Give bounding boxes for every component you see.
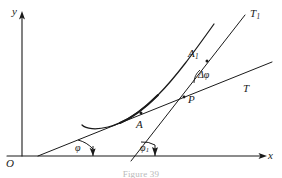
tangent-T1-label: T1 <box>250 8 260 21</box>
tangent-line-T <box>38 62 272 156</box>
figure-caption: Figure 39 <box>0 169 282 178</box>
point-P-label: P <box>188 94 195 105</box>
angle-phi-label: φ <box>75 143 81 153</box>
angle-phi1-label: φ1 <box>140 143 149 154</box>
axes-group <box>7 11 267 159</box>
point-A1-label-text: A <box>188 47 195 59</box>
figure-container: y x O A A1 P T T1 φ φ1 Δφ Figure 39 <box>0 0 282 178</box>
point-P-marker <box>183 96 186 99</box>
angle-phi1-label-subscript: 1 <box>146 146 150 153</box>
point-A1-marker <box>206 60 209 63</box>
point-A1-label: A1 <box>188 48 199 61</box>
tangent-line-T1 <box>131 15 245 161</box>
origin-label: O <box>6 158 14 169</box>
tangent-T1-label-subscript: 1 <box>256 13 260 21</box>
point-A-marker <box>140 112 143 115</box>
angle-phi1-label-text: φ <box>140 142 146 153</box>
curve-path <box>82 24 214 129</box>
tangent-T-label: T <box>243 83 249 94</box>
x-axis-label: x <box>268 150 273 161</box>
point-A1-label-subscript: 1 <box>195 53 199 61</box>
angle-delta-phi-label: Δφ <box>198 70 209 80</box>
y-axis-label: y <box>12 6 17 17</box>
point-A-label: A <box>136 119 143 130</box>
